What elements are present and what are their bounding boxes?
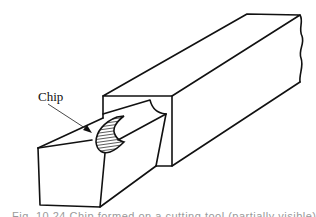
figure-caption: Fig. 10.24 Chip formed on a cutting tool… xyxy=(12,210,316,217)
shank-top-face xyxy=(103,14,300,96)
tip-front-face xyxy=(38,148,105,207)
cutting-tool-diagram xyxy=(0,0,316,217)
shank-side-edge xyxy=(172,82,300,166)
chip-label: Chip xyxy=(38,89,63,105)
chip-leader-line xyxy=(48,104,88,130)
chip-shape xyxy=(96,116,124,153)
chip-groove-curve xyxy=(103,100,166,114)
shank-break-line xyxy=(300,15,303,82)
tip-side-edge xyxy=(100,166,156,207)
